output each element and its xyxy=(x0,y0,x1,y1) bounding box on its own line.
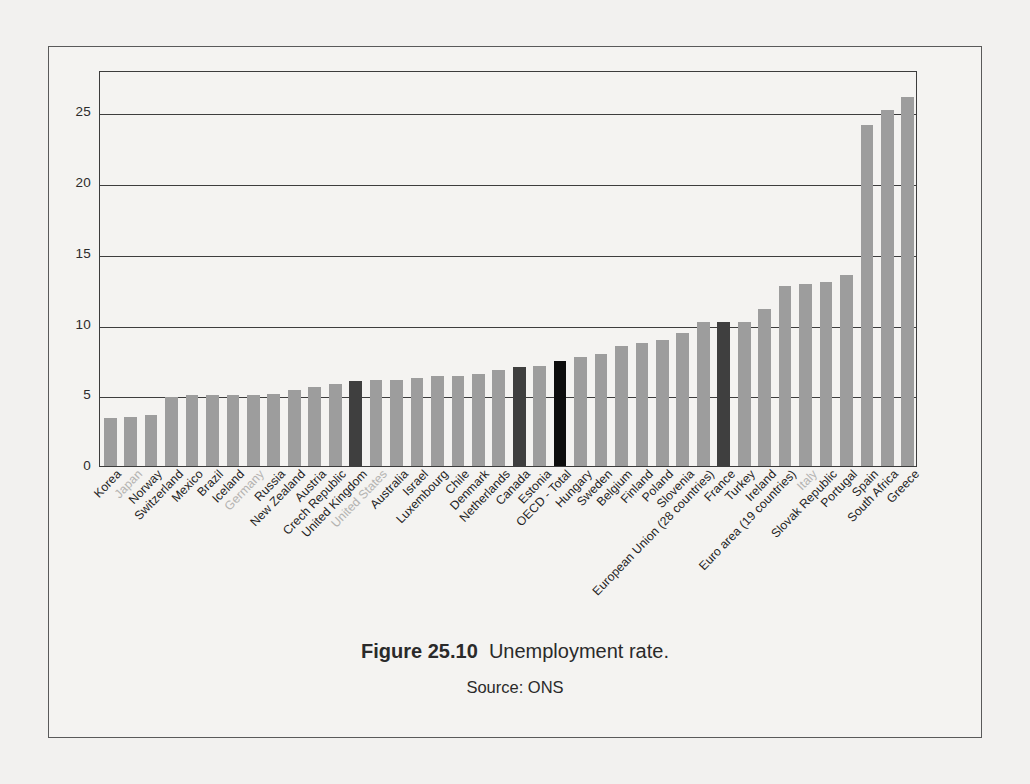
figure-title: Unemployment rate. xyxy=(489,640,669,662)
bar xyxy=(472,374,485,466)
bar xyxy=(901,97,914,466)
bar xyxy=(676,333,689,466)
bar xyxy=(452,376,465,467)
y-tick-label-10: 10 xyxy=(51,317,91,332)
bar xyxy=(370,380,383,466)
figure-caption: Figure 25.10 Unemployment rate. xyxy=(48,640,982,663)
bar xyxy=(513,367,526,466)
bar xyxy=(431,376,444,467)
figure-number: Figure 25.10 xyxy=(361,640,478,662)
y-tick-label-5: 5 xyxy=(51,387,91,402)
bar xyxy=(288,390,301,466)
bar xyxy=(717,322,730,466)
bar xyxy=(267,394,280,466)
bar xyxy=(861,125,874,466)
bar xyxy=(308,387,321,466)
bar xyxy=(492,370,505,466)
bar xyxy=(227,395,240,466)
figure-page: 0510152025 KoreaJapanNorwaySwitzerlandMe… xyxy=(0,0,1030,784)
bar xyxy=(615,346,628,466)
bar xyxy=(533,366,546,466)
bar xyxy=(738,322,751,466)
y-tick-label-20: 20 xyxy=(51,175,91,190)
bar xyxy=(881,110,894,466)
bar xyxy=(329,384,342,466)
y-tick-label-0: 0 xyxy=(51,458,91,473)
bar xyxy=(697,322,710,466)
bar xyxy=(124,417,137,467)
bar xyxy=(554,361,567,466)
bar xyxy=(758,309,771,466)
bar xyxy=(145,415,158,466)
bar xyxy=(186,395,199,466)
bar xyxy=(636,343,649,466)
y-tick-label-25: 25 xyxy=(51,104,91,119)
bar xyxy=(104,418,117,466)
bar xyxy=(840,275,853,466)
bar xyxy=(165,397,178,466)
bar xyxy=(247,395,260,466)
y-tick-label-15: 15 xyxy=(51,246,91,261)
x-axis-labels: KoreaJapanNorwaySwitzerlandMexicoBrazilI… xyxy=(99,467,917,637)
bar-series xyxy=(100,72,916,466)
figure-source: Source: ONS xyxy=(48,678,982,697)
bar xyxy=(411,378,424,466)
bar xyxy=(820,282,833,466)
plot-area xyxy=(99,71,917,467)
bar xyxy=(349,381,362,466)
bar xyxy=(595,354,608,466)
bar xyxy=(206,395,219,466)
bar xyxy=(799,284,812,466)
bar xyxy=(656,340,669,466)
bar xyxy=(574,357,587,466)
bar xyxy=(390,380,403,466)
bar xyxy=(779,286,792,466)
